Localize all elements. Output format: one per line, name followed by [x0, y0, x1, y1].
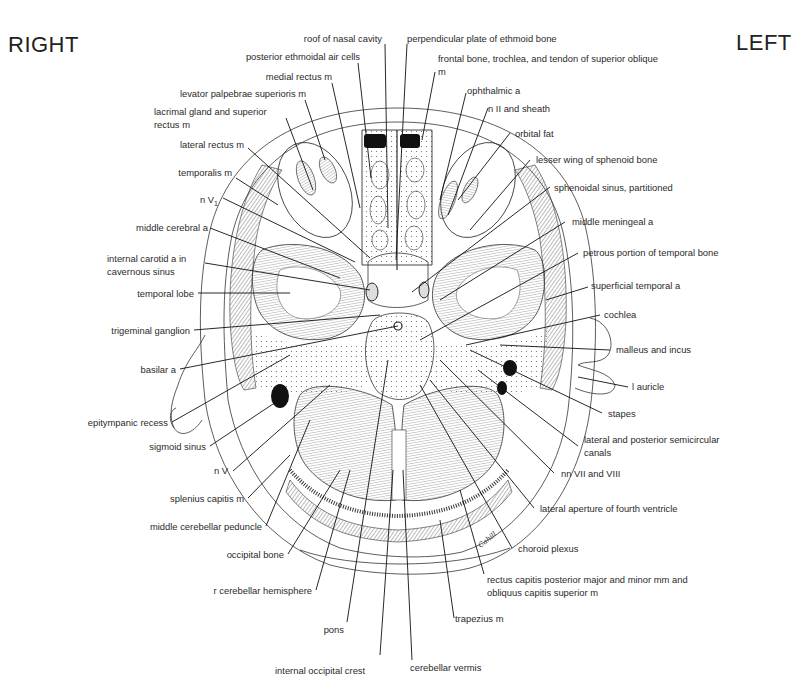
- label-r-cerebellar-hemisphere: r cerebellar hemisphere: [180, 584, 312, 597]
- label-orbital-fat: orbital fat: [515, 127, 554, 140]
- label-n-v1: n V1: [180, 193, 218, 210]
- label-lateral-aperture: lateral aperture of fourth ventricle: [540, 502, 678, 515]
- label-l-auricle: l auricle: [632, 380, 664, 393]
- label-malleus-incus: malleus and incus: [616, 343, 691, 356]
- label-posterior-ethmoidal-air-cells: posterior ethmoidal air cells: [226, 50, 360, 63]
- label-nn-vii-viii: nn VII and VIII: [561, 467, 620, 480]
- label-middle-meningeal-a: middle meningeal a: [572, 215, 653, 228]
- label-sigmoid-sinus: sigmoid sinus: [120, 440, 206, 453]
- label-trigeminal-ganglion: trigeminal ganglion: [80, 324, 190, 337]
- label-choroid-plexus: choroid plexus: [518, 542, 578, 555]
- label-trapezius: trapezius m: [455, 612, 503, 625]
- label-lateral-rectus: lateral rectus m: [160, 138, 244, 151]
- label-pons: pons: [300, 623, 344, 636]
- cerebellar-hemisphere-left: [401, 386, 504, 500]
- label-n-ii-sheath: n II and sheath: [488, 102, 550, 115]
- label-middle-cerebral-a: middle cerebral a: [110, 221, 208, 234]
- label-roof-of-nasal-cavity: roof of nasal cavity: [296, 32, 382, 45]
- label-lacrimal-gland: lacrimal gland and superior rectus m: [154, 105, 288, 131]
- label-frontal-bone-trochlea: frontal bone, trochlea, and tendon of su…: [438, 52, 668, 78]
- label-rectus-capitis: rectus capitis posterior major and minor…: [487, 573, 709, 599]
- label-ophthalmic-a: ophthalmic a: [467, 84, 520, 97]
- label-internal-carotid: internal carotid a in cavernous sinus: [107, 252, 205, 278]
- label-medial-rectus: medial rectus m: [256, 70, 332, 83]
- label-internal-occipital-crest: internal occipital crest: [275, 664, 365, 677]
- label-levator-palpebrae: levator palpebrae superioris m: [160, 87, 306, 100]
- label-stapes: stapes: [608, 407, 636, 420]
- label-splenius-capitis: splenius capitis m: [140, 492, 244, 505]
- label-superficial-temporal-a: superficial temporal a: [591, 279, 680, 292]
- label-lesser-wing-sphenoid: lesser wing of sphenoid bone: [536, 153, 657, 166]
- label-epitympanic-recess: epitympanic recess: [60, 416, 168, 429]
- label-perpendicular-plate: perpendicular plate of ethmoid bone: [407, 32, 557, 45]
- label-basilar-a: basilar a: [120, 363, 176, 376]
- label-petrous-temporal: petrous portion of temporal bone: [583, 246, 719, 259]
- label-semicircular-canals: lateral and posterior semicircular canal…: [584, 433, 744, 459]
- label-temporal-lobe: temporal lobe: [110, 287, 194, 300]
- label-cochlea: cochlea: [604, 308, 636, 321]
- label-n-v: n V: [190, 464, 228, 477]
- label-sphenoidal-sinus: sphenoidal sinus, partitioned: [554, 181, 673, 194]
- label-cerebellar-vermis: cerebellar vermis: [410, 661, 481, 674]
- label-temporalis: temporalis m: [160, 166, 232, 179]
- label-occipital-bone: occipital bone: [200, 548, 284, 561]
- label-middle-cerebellar-peduncle: middle cerebellar peduncle: [120, 520, 262, 533]
